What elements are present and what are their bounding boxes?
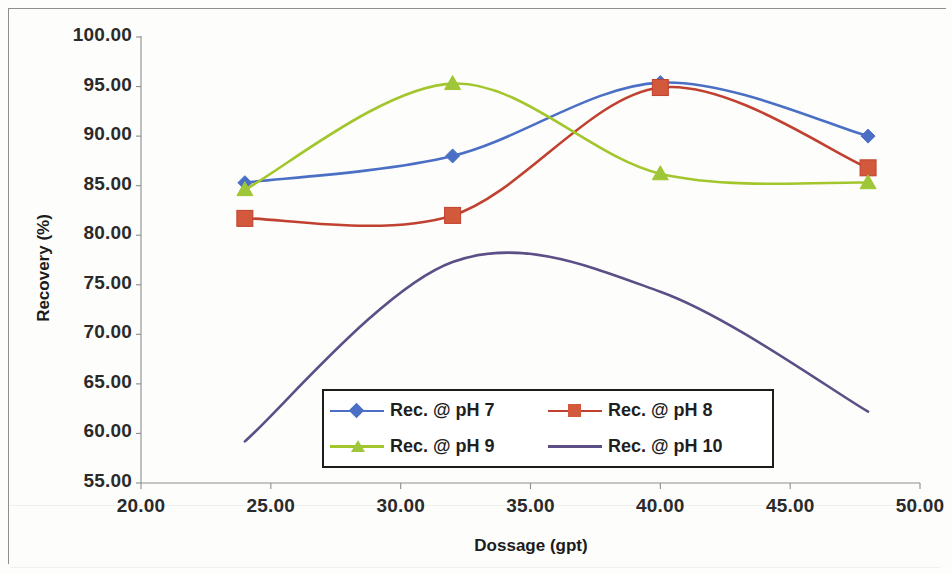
legend-entry-ph7[interactable]: Rec. @ pH 7: [330, 400, 548, 421]
y-tick-label: 60.00: [20, 420, 132, 442]
data-series: [237, 76, 876, 442]
y-tick-label: 55.00: [20, 470, 132, 492]
series-line: [245, 82, 868, 182]
data-point-marker: [237, 210, 253, 226]
data-point-marker: [861, 129, 875, 143]
x-tick-label: 40.00: [600, 495, 720, 517]
series-2: [237, 80, 876, 227]
y-tick-label: 95.00: [20, 74, 132, 96]
y-axis-title: Recovery (%): [34, 178, 54, 358]
x-axis-title: Dossage (gpt): [141, 536, 921, 556]
x-tick-label: 25.00: [211, 495, 331, 517]
legend-label-ph10: Rec. @ pH 10: [606, 436, 723, 457]
x-tick-label: 45.00: [730, 495, 850, 517]
series-3: [237, 76, 876, 196]
x-tick-label: 35.00: [471, 495, 591, 517]
legend-label-ph9: Rec. @ pH 9: [388, 436, 495, 457]
legend-label-ph8: Rec. @ pH 8: [606, 400, 713, 421]
plot-canvas: [0, 0, 952, 574]
x-tick-label: 30.00: [341, 495, 461, 517]
chart-legend[interactable]: Rec. @ pH 7 Rec. @ pH 8 Rec. @ pH 9 Rec.…: [322, 389, 774, 468]
data-point-marker: [445, 207, 461, 223]
legend-swatch-ph9: [330, 438, 384, 454]
y-tick-label: 100.00: [20, 24, 132, 46]
x-tick-label: 20.00: [81, 495, 201, 517]
legend-entry-ph8[interactable]: Rec. @ pH 8: [548, 400, 766, 421]
legend-label-ph7: Rec. @ pH 7: [388, 400, 495, 421]
legend-entry-ph9[interactable]: Rec. @ pH 9: [330, 436, 548, 457]
legend-swatch-ph10: [548, 438, 602, 454]
data-point-marker: [652, 80, 668, 96]
data-point-marker: [446, 149, 460, 163]
legend-swatch-ph8: [548, 403, 602, 419]
legend-entry-ph10[interactable]: Rec. @ pH 10: [548, 436, 766, 457]
y-tick-label: 90.00: [20, 123, 132, 145]
chart-figure: 55.0060.0065.0070.0075.0080.0085.0090.00…: [0, 0, 952, 574]
x-tick-label: 50.00: [860, 495, 952, 517]
series-line: [245, 87, 868, 226]
legend-swatch-ph7: [330, 403, 384, 419]
data-point-marker: [860, 160, 876, 176]
y-tick-label: 65.00: [20, 371, 132, 393]
